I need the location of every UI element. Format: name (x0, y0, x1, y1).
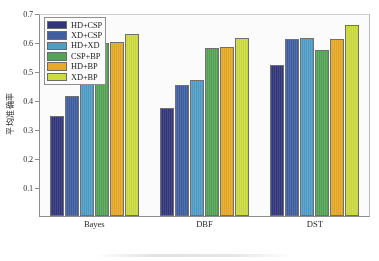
legend-item-label: XD+BP (71, 73, 98, 82)
legend-item-hd-bp: HD+BP (47, 62, 102, 72)
legend-item-label: HD+XD (71, 41, 99, 50)
legend-item-label: HD+BP (71, 62, 98, 71)
scan-artifact (96, 254, 292, 257)
legend-item-label: XD+CSP (71, 31, 102, 40)
y-axis-tick-label: 0.1 (6, 184, 33, 193)
legend-item-hd-xd: HD+XD (47, 41, 102, 51)
bar-hd-csp-bayes (50, 116, 64, 216)
bar-xd-csp-dst (285, 39, 299, 216)
legend-swatch-icon (47, 21, 67, 30)
bar-xd-bp-dbf (235, 38, 249, 216)
legend-item-csp-bp: CSP+BP (47, 51, 102, 61)
bar-hd-bp-bayes (110, 42, 124, 216)
y-axis-tick-label: 0.2 (6, 155, 33, 164)
y-axis-tick-label: 0.6 (6, 39, 33, 48)
bar-group-dbf (160, 15, 249, 216)
bar-csp-bp-dst (315, 50, 329, 216)
legend-swatch-icon (47, 73, 67, 82)
y-axis-tick-label: 0.7 (6, 10, 33, 19)
legend-item-xd-csp: XD+CSP (47, 30, 102, 40)
bar-hd-bp-dbf (220, 47, 234, 216)
x-axis-label-dst: DST (267, 219, 363, 235)
legend: HD+CSPXD+CSPHD+XDCSP+BPHD+BPXD+BP (44, 17, 106, 85)
bar-hd-xd-dbf (190, 80, 204, 216)
legend-item-hd-csp: HD+CSP (47, 20, 102, 30)
bar-xd-bp-dst (345, 25, 359, 216)
x-axis-label-bayes: Bayes (46, 219, 142, 235)
legend-item-xd-bp: XD+BP (47, 72, 102, 82)
bar-hd-csp-dbf (160, 108, 174, 216)
bar-hd-csp-dst (270, 65, 284, 216)
bar-xd-csp-bayes (65, 96, 79, 216)
bar-hd-xd-dst (300, 38, 314, 216)
legend-swatch-icon (47, 62, 67, 71)
x-axis-label-dbf: DBF (156, 219, 252, 235)
legend-swatch-icon (47, 42, 67, 51)
bar-xd-bp-bayes (125, 34, 139, 216)
bar-csp-bp-dbf (205, 48, 219, 216)
bar-chart-figure: 0.10.20.30.40.50.60.7 平均准确率 HD+CSPXD+CSP… (0, 0, 379, 261)
legend-swatch-icon (47, 52, 67, 61)
legend-swatch-icon (47, 31, 67, 40)
bar-hd-xd-bayes (80, 83, 94, 216)
legend-item-label: CSP+BP (71, 52, 100, 61)
bar-xd-csp-dbf (175, 85, 189, 216)
bar-hd-bp-dst (330, 39, 344, 216)
x-axis-labels: BayesDBFDST (39, 219, 370, 235)
legend-item-label: HD+CSP (71, 21, 102, 30)
bar-group-dst (270, 15, 359, 216)
y-axis-title: 平均准确率 (4, 74, 15, 154)
